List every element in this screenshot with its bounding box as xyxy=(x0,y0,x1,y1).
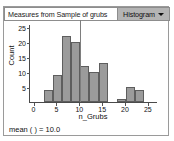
y-tick-label: 5 xyxy=(13,85,26,92)
y-axis-ticks: 510152025 xyxy=(13,21,26,121)
histogram-chart: Count 510152025 0510152025 n_Grubs xyxy=(4,21,170,121)
plot-type-label: Histogram xyxy=(123,10,155,19)
histogram-bar xyxy=(89,72,98,102)
y-tick-mark xyxy=(27,43,30,44)
histogram-bar xyxy=(62,36,71,102)
histogram-bar xyxy=(117,99,126,102)
y-tick-mark xyxy=(27,28,30,29)
histogram-bars xyxy=(30,25,157,102)
y-tick-mark xyxy=(27,73,30,74)
histogram-bar xyxy=(53,75,62,102)
histogram-bar xyxy=(99,63,108,102)
histogram-bar xyxy=(71,42,80,102)
mean-statistic-text: mean ( ) = 10.0 xyxy=(9,125,60,134)
histogram-bar xyxy=(126,87,135,102)
y-tick-mark xyxy=(27,58,30,59)
histogram-bar xyxy=(135,90,144,102)
y-tick-label: 20 xyxy=(13,40,26,47)
measures-footer: mean ( ) = 10.0 xyxy=(9,123,159,135)
histogram-bar xyxy=(44,90,53,102)
measures-title-box[interactable]: Measures from Sample of grubs xyxy=(4,7,118,21)
x-axis-label: n_Grubs xyxy=(29,112,157,121)
histogram-widget: Measures from Sample of grubs Histogram … xyxy=(3,6,169,136)
y-tick-label: 25 xyxy=(13,25,26,32)
mean-reference-line xyxy=(80,20,81,102)
y-tick-mark xyxy=(27,88,30,89)
plot-type-dropdown[interactable]: Histogram xyxy=(118,7,170,21)
widget-header: Measures from Sample of grubs Histogram xyxy=(4,7,170,21)
y-tick-label: 10 xyxy=(13,70,26,77)
page-title: Measures from Sample of grubs xyxy=(8,10,107,19)
plot-area xyxy=(29,25,157,103)
y-tick-label: 15 xyxy=(13,55,26,62)
chevron-down-icon xyxy=(158,13,164,16)
histogram-bar xyxy=(80,66,89,102)
